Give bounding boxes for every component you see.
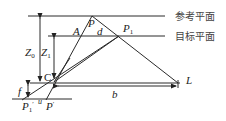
label-p1: P1 xyxy=(122,22,134,36)
ray-p1-to-p1prime xyxy=(22,36,119,100)
label-b: b xyxy=(112,88,118,100)
label-a: A xyxy=(72,25,80,37)
label-p-prime: P′ xyxy=(45,100,55,112)
ray-p-to-l xyxy=(92,16,178,83)
label-p1-prime: P1′ xyxy=(21,100,34,114)
label-z1: Z1 xyxy=(41,46,51,60)
ray-c-to-p1 xyxy=(54,36,119,82)
label-l: L xyxy=(185,74,192,86)
label-d: d xyxy=(97,25,103,37)
label-u: u xyxy=(38,97,42,106)
label-z0: Z0 xyxy=(25,46,35,60)
label-c: C xyxy=(44,71,51,83)
triangulation-diagram: 参考平面 目标平面 P A d P1 Z0 Z1 C f b L P1′ u P… xyxy=(0,0,226,121)
reference-plane-label: 参考平面 xyxy=(175,10,215,22)
target-plane-label: 目标平面 xyxy=(175,31,215,42)
label-p: P xyxy=(87,17,95,29)
label-f: f xyxy=(18,85,23,97)
